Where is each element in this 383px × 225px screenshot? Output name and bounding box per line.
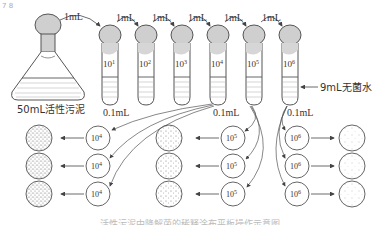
sample-label: 0.1mL	[213, 107, 239, 118]
culture-plate	[156, 181, 182, 207]
flask	[12, 14, 85, 100]
sample-label: 0.1mL	[287, 107, 313, 118]
culture-plate	[339, 153, 365, 179]
transfer-label: 1mL	[152, 12, 171, 23]
culture-plate	[26, 181, 52, 207]
culture-plate	[156, 125, 182, 151]
figure-caption: 活性污泥中降解菌的稀释涂布平板操作示意图	[100, 218, 280, 225]
transfer-label: 1mL	[64, 11, 83, 22]
transfer-label: 1mL	[188, 12, 207, 23]
culture-plate	[339, 181, 365, 207]
transfer-label: 1mL	[116, 12, 135, 23]
sample-label: 0.1mL	[103, 107, 129, 118]
test-tubes	[99, 25, 301, 105]
water-label: 9mL无菌水	[320, 82, 372, 93]
culture-plate	[339, 125, 365, 151]
flask-label: 50mL活性污泥	[17, 103, 85, 115]
sample-curves	[110, 104, 287, 187]
culture-plate	[156, 153, 182, 179]
culture-plate	[26, 125, 52, 151]
transfer-arrows	[60, 15, 282, 26]
transfer-label: 1mL	[262, 12, 281, 23]
dilution-diagram: 7 8 50mL活性污泥 1mL 1mL 1mL 1mL 1mL 1mL	[0, 0, 383, 225]
corner-mark: 7 8	[2, 2, 13, 10]
culture-plate	[26, 153, 52, 179]
transfer-label: 1mL	[224, 12, 243, 23]
